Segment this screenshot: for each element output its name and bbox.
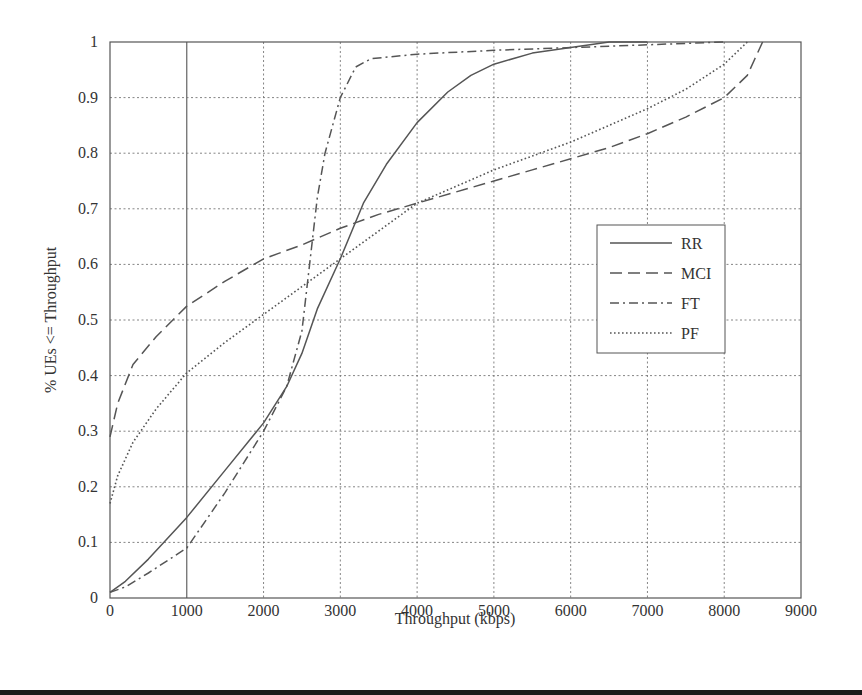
x-tick-label: 7000 [631, 602, 663, 619]
y-tick-label: 0 [90, 589, 98, 606]
legend-box [597, 225, 725, 353]
y-tick-label: 0.3 [78, 422, 98, 439]
legend-label-ft: FT [681, 295, 700, 312]
x-axis-label: Throughput (kbps) [395, 610, 515, 628]
x-tick-label: 8000 [708, 602, 740, 619]
x-tick-label: 3000 [324, 602, 356, 619]
y-axis-label: % UEs <= Throughput [42, 246, 60, 393]
bottom-border-band [0, 690, 862, 695]
y-tick-label: 0.1 [78, 533, 98, 550]
y-tick-label: 0.9 [78, 89, 98, 106]
x-tick-label: 2000 [248, 602, 280, 619]
legend-label-rr: RR [681, 235, 703, 252]
y-tick-label: 0.7 [78, 200, 98, 217]
y-axis-ticks: 00.10.20.30.40.50.60.70.80.91 [78, 33, 98, 606]
y-tick-label: 1 [90, 33, 98, 50]
y-tick-label: 0.2 [78, 478, 98, 495]
x-tick-label: 9000 [785, 602, 817, 619]
y-tick-label: 0.8 [78, 144, 98, 161]
legend-label-pf: PF [681, 325, 699, 342]
y-tick-label: 0.5 [78, 311, 98, 328]
x-tick-label: 1000 [171, 602, 203, 619]
x-tick-label: 0 [106, 602, 114, 619]
x-tick-label: 6000 [555, 602, 587, 619]
legend-label-mci: MCI [681, 265, 711, 282]
cdf-chart: 0100020003000400050006000700080009000 00… [0, 0, 862, 695]
y-tick-label: 0.6 [78, 255, 98, 272]
legend: RRMCIFTPF [597, 225, 725, 353]
y-tick-label: 0.4 [78, 367, 98, 384]
series-rr [110, 42, 647, 592]
